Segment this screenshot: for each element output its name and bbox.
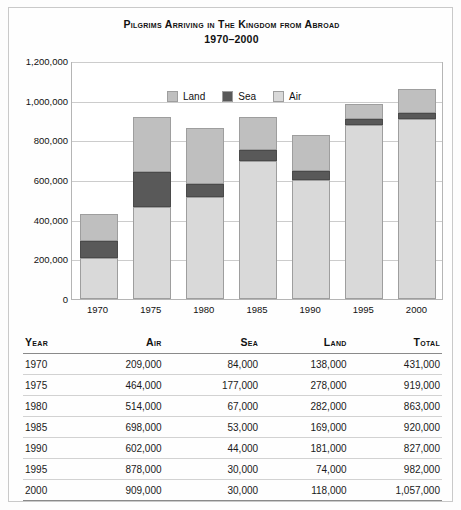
- table-cell-total: 1,057,000: [369, 480, 442, 501]
- table-cell-total: 919,000: [369, 375, 442, 396]
- table-cell-land: 74,000: [278, 459, 369, 480]
- table-cell-total: 982,000: [369, 459, 442, 480]
- table-row: 1980514,00067,000282,000863,000: [23, 396, 442, 417]
- bar-segment-air: [345, 125, 383, 299]
- bar-segment-sea: [345, 119, 383, 125]
- y-axis-tick-label: 0: [0, 295, 68, 305]
- x-axis-tick-label: 1995: [336, 304, 390, 315]
- table-cell-total: 431,000: [369, 354, 442, 375]
- table-cell-year: 1980: [23, 396, 93, 417]
- table-cell-sea: 84,000: [190, 354, 279, 375]
- table-cell-air: 514,000: [93, 396, 190, 417]
- y-axis-tick-label: 600,000: [0, 176, 68, 186]
- table-row: 1985698,00053,000169,000920,000: [23, 417, 442, 438]
- legend-label: Land: [183, 91, 205, 102]
- bar-1985: [239, 117, 277, 299]
- table-cell-land: 138,000: [278, 354, 369, 375]
- bar-segment-land: [239, 117, 277, 151]
- table-head: Year Air Sea Land Total: [23, 330, 442, 354]
- table-cell-land: 278,000: [278, 375, 369, 396]
- table-cell-year: 1995: [23, 459, 93, 480]
- page-subtitle: 1970–2000: [9, 32, 454, 46]
- legend-swatch-icon: [273, 91, 284, 102]
- legend-item-land[interactable]: Land: [167, 91, 205, 102]
- x-axis-tick-label: 1990: [283, 304, 337, 315]
- table-cell-sea: 53,000: [190, 417, 279, 438]
- table-cell-air: 909,000: [93, 480, 190, 501]
- y-axis-tick-label: 800,000: [0, 136, 68, 146]
- table-cell-sea: 30,000: [190, 480, 279, 501]
- x-axis-tick-label: 1980: [177, 304, 231, 315]
- table-cell-land: 118,000: [278, 480, 369, 501]
- bar-segment-sea: [186, 184, 224, 197]
- bar-segment-sea: [292, 171, 330, 180]
- bar-segment-sea: [80, 241, 118, 258]
- table-cell-total: 827,000: [369, 438, 442, 459]
- table-row: 1990602,00044,000181,000827,000: [23, 438, 442, 459]
- table-cell-air: 878,000: [93, 459, 190, 480]
- bar-segment-land: [292, 135, 330, 171]
- bar-segment-sea: [239, 150, 277, 161]
- bar-segment-air: [80, 258, 118, 299]
- legend-label: Air: [289, 91, 301, 102]
- legend-item-air[interactable]: Air: [273, 91, 301, 102]
- legend-swatch-icon: [167, 91, 178, 102]
- page-title: Pilgrims Arriving in The Kingdom from Ab…: [9, 17, 454, 32]
- table-cell-total: 863,000: [369, 396, 442, 417]
- gridline: [72, 62, 442, 63]
- y-axis-tick-label: 1,200,000: [0, 57, 68, 67]
- column-header-sea: Sea: [190, 330, 279, 354]
- plot-area: LandSeaAir: [71, 62, 443, 300]
- bar-segment-sea: [398, 113, 436, 119]
- legend-swatch-icon: [222, 91, 233, 102]
- content-frame: Pilgrims Arriving in The Kingdom from Ab…: [8, 7, 453, 502]
- y-axis-tick-label: 1,000,000: [0, 97, 68, 107]
- table-cell-sea: 30,000: [190, 459, 279, 480]
- legend-item-sea[interactable]: Sea: [222, 91, 256, 102]
- table-cell-year: 1970: [23, 354, 93, 375]
- bar-segment-air: [133, 207, 171, 299]
- table-cell-land: 169,000: [278, 417, 369, 438]
- chart-title-block: Pilgrims Arriving in The Kingdom from Ab…: [9, 17, 454, 46]
- bar-2000: [398, 89, 436, 299]
- table-cell-year: 1990: [23, 438, 93, 459]
- table-body: 1970209,00084,000138,000431,0001975464,0…: [23, 354, 442, 501]
- data-table-wrapper: Year Air Sea Land Total 1970209,00084,00…: [23, 330, 442, 501]
- column-header-air: Air: [93, 330, 190, 354]
- bar-1990: [292, 135, 330, 299]
- table-cell-air: 209,000: [93, 354, 190, 375]
- table-cell-year: 2000: [23, 480, 93, 501]
- table-cell-land: 181,000: [278, 438, 369, 459]
- data-table: Year Air Sea Land Total 1970209,00084,00…: [23, 330, 442, 501]
- bar-1995: [345, 104, 383, 299]
- x-axis-tick-label: 1970: [71, 304, 125, 315]
- legend-label: Sea: [238, 91, 256, 102]
- bar-segment-air: [186, 197, 224, 299]
- table-row: 1975464,000177,000278,000919,000: [23, 375, 442, 396]
- table-cell-total: 920,000: [369, 417, 442, 438]
- table-header-row: Year Air Sea Land Total: [23, 330, 442, 354]
- bar-segment-air: [292, 180, 330, 299]
- table-row: 2000909,00030,000118,0001,057,000: [23, 480, 442, 501]
- bar-segment-land: [133, 117, 171, 172]
- table-cell-land: 282,000: [278, 396, 369, 417]
- column-header-land: Land: [278, 330, 369, 354]
- table-cell-year: 1985: [23, 417, 93, 438]
- bar-segment-land: [186, 128, 224, 184]
- y-axis-tick-label: 400,000: [0, 216, 68, 226]
- table-cell-air: 698,000: [93, 417, 190, 438]
- bar-segment-land: [398, 89, 436, 112]
- table-cell-sea: 177,000: [190, 375, 279, 396]
- table-cell-sea: 67,000: [190, 396, 279, 417]
- column-header-year: Year: [23, 330, 93, 354]
- table-cell-air: 464,000: [93, 375, 190, 396]
- bar-segment-air: [398, 119, 436, 299]
- table-cell-year: 1975: [23, 375, 93, 396]
- bar-1980: [186, 128, 224, 299]
- chart-legend: LandSeaAir: [167, 91, 311, 102]
- bar-segment-land: [80, 214, 118, 241]
- table-cell-sea: 44,000: [190, 438, 279, 459]
- stacked-bar-chart: 0200,000400,000600,000800,0001,000,0001,…: [9, 52, 454, 320]
- table-cell-air: 602,000: [93, 438, 190, 459]
- bar-segment-air: [239, 161, 277, 299]
